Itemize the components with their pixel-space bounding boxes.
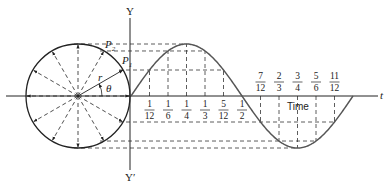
svg-text:5: 5: [314, 71, 319, 81]
radius-label: r: [98, 71, 103, 83]
sine-wave-diagram: Y Y′ t r θ P2 P1 Time 112161413512127122…: [0, 0, 387, 184]
svg-text:3: 3: [277, 83, 282, 93]
svg-text:7: 7: [258, 71, 263, 81]
svg-text:3: 3: [203, 111, 208, 121]
svg-text:12: 12: [330, 83, 340, 93]
time-fraction: 712: [256, 71, 266, 93]
svg-text:6: 6: [314, 83, 319, 93]
svg-text:2: 2: [240, 111, 245, 121]
y-prime-axis-label: Y′: [125, 171, 135, 183]
svg-text:2: 2: [277, 71, 282, 81]
svg-text:1: 1: [147, 99, 152, 109]
time-fraction: 16: [163, 99, 173, 121]
time-label: Time: [287, 101, 309, 112]
svg-text:12: 12: [256, 83, 266, 93]
theta-label: θ: [106, 82, 112, 94]
time-fraction: 512: [219, 99, 229, 121]
time-fraction: 14: [182, 99, 192, 121]
time-fraction: 23: [274, 71, 284, 93]
t-axis-label: t: [380, 89, 384, 101]
svg-text:5: 5: [221, 99, 226, 109]
svg-text:11: 11: [330, 71, 339, 81]
svg-text:4: 4: [184, 111, 189, 121]
svg-text:12: 12: [145, 111, 155, 121]
time-fraction: 56: [311, 71, 321, 93]
svg-text:1: 1: [166, 99, 171, 109]
time-fraction: 112: [145, 99, 155, 121]
svg-text:3: 3: [295, 71, 300, 81]
y-axis-label: Y: [126, 5, 134, 17]
time-fraction: 13: [200, 99, 210, 121]
svg-text:1: 1: [203, 99, 208, 109]
angle-arc-theta: [99, 84, 102, 96]
svg-text:4: 4: [295, 83, 300, 93]
time-fraction: 1112: [330, 71, 340, 93]
svg-text:12: 12: [219, 111, 229, 121]
svg-text:1: 1: [184, 99, 189, 109]
svg-text:1: 1: [240, 99, 245, 109]
p1-label: P1: [121, 54, 132, 69]
svg-text:6: 6: [166, 111, 171, 121]
time-fraction: 34: [293, 71, 303, 93]
